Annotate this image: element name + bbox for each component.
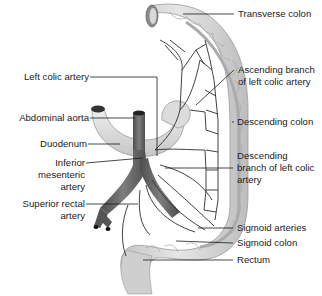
label-line: Inferior — [38, 157, 85, 169]
label-sigmoid-colon: Sigmoid colon — [237, 237, 297, 249]
label-inferior-mesenteric-artery: Inferior mesenteric artery — [38, 157, 85, 193]
label-sigmoid-arteries: Sigmoid arteries — [237, 222, 306, 234]
label-superior-rectal-artery: Superior rectal artery — [23, 198, 85, 222]
label-left-colic-artery: Left colic artery — [24, 71, 89, 83]
label-line: Descending — [237, 150, 314, 162]
label-transverse-colon: Transverse colon — [238, 8, 311, 20]
label-descending-colon: Descending colon — [237, 116, 313, 128]
label-line: Ascending branch — [238, 64, 315, 76]
label-line: of left colic artery — [238, 76, 315, 88]
colon-blood-supply-diagram: Left colic artery Abdominal aorta Duoden… — [0, 0, 322, 296]
label-line: artery — [23, 210, 85, 222]
label-abdominal-aorta: Abdominal aorta — [19, 112, 89, 124]
label-descending-branch: Descending branch of left colic artery — [237, 150, 314, 186]
label-line: Superior rectal — [23, 198, 85, 210]
label-line: branch of left colic — [237, 162, 314, 174]
label-line: artery — [237, 174, 314, 186]
label-line: artery — [38, 181, 85, 193]
label-line: mesenteric — [38, 169, 85, 181]
label-rectum: Rectum — [237, 254, 270, 266]
label-ascending-branch: Ascending branch of left colic artery — [238, 64, 315, 88]
label-duodenum: Duodenum — [40, 138, 87, 150]
